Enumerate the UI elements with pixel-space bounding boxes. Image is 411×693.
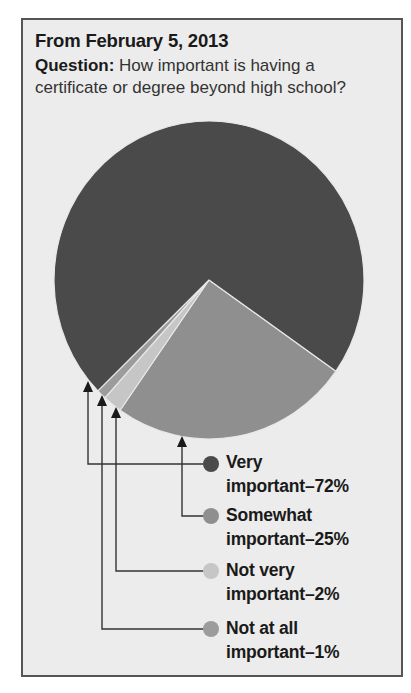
legend-label-line1: Not at all — [226, 616, 339, 640]
legend-dot-somewhat — [203, 508, 219, 524]
pie-slices — [54, 121, 364, 439]
legend-label-line1: Very — [226, 450, 349, 474]
legend-label-line1: Somewhat — [226, 503, 349, 527]
legend-dot-very — [203, 456, 219, 472]
legend-label-line2: important–25% — [226, 527, 349, 551]
connector-not-very — [116, 416, 204, 571]
legend-label-line1: Not very — [226, 558, 339, 582]
pie-chart — [0, 0, 411, 693]
legend-dot-not-very — [203, 563, 219, 579]
legend-item-very: Very important–72% — [226, 450, 349, 498]
legend-label-line2: important–72% — [226, 474, 349, 498]
legend-item-not-very: Not very important–2% — [226, 558, 339, 606]
legend-item-not-at-all: Not at all important–1% — [226, 616, 339, 664]
connector-somewhat — [182, 445, 204, 516]
legend-item-somewhat: Somewhat important–25% — [226, 503, 349, 551]
legend-label-line2: important–2% — [226, 582, 339, 606]
legend-dot-not-at-all — [203, 621, 219, 637]
legend-dots — [203, 456, 219, 637]
legend-label-line2: important–1% — [226, 640, 339, 664]
